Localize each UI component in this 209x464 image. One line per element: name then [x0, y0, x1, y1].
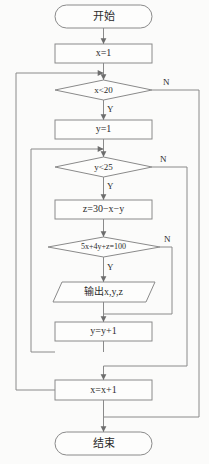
branch-label-cond-eq-yes: Y: [107, 262, 114, 272]
node-output-label: 输出x,y,z: [84, 285, 123, 297]
arrow-init-x-to-cond-x: [101, 74, 107, 80]
branch-label-cond-y-no: N: [160, 154, 167, 164]
arrow-start-to-init-x: [101, 38, 107, 44]
node-cond-x-label: x<20: [94, 85, 113, 95]
arrow-to-end: [101, 426, 107, 432]
branch-label-cond-y-yes: Y: [107, 181, 114, 191]
arrow-cond-y-to-calc-z: [101, 194, 107, 200]
node-start-label: 开始: [93, 9, 115, 22]
branch-label-cond-x-no: N: [163, 77, 170, 87]
branch-label-cond-x-yes: Y: [107, 104, 114, 114]
arrow-cond-eq-to-output: [101, 276, 107, 282]
node-end-label: 结束: [93, 437, 115, 449]
node-calc-z-label: z=30−x−y: [83, 203, 124, 214]
node-incr-x-label: x=x+1: [90, 384, 116, 395]
arrow-output-to-incr-y: [101, 316, 107, 322]
node-incr-y-label: y=y+1: [90, 325, 116, 336]
branch-label-cond-eq-no: N: [164, 234, 171, 244]
connector-outer-loop-left: [16, 73, 55, 390]
node-cond-y-label: y<25: [94, 162, 113, 172]
arrow-to-incr-x: [101, 374, 107, 380]
arrow-calc-z-to-cond-eq: [101, 231, 107, 237]
flowchart-svg: 开始 x=1 x<20 N Y y=1 y<25 N Y z=30−x−y 5x…: [0, 0, 209, 464]
arrow-inner-loop-into-cond-y: [98, 146, 104, 152]
node-cond-eq-label: 5x+4y+z=100: [81, 242, 126, 251]
node-init-y-label: y=1: [96, 123, 112, 134]
connector-cond-eq-no: [104, 247, 173, 314]
connector-inner-loop-left: [31, 149, 55, 352]
arrow-init-y-to-cond-y: [101, 151, 107, 157]
flowchart-canvas: 开始 x=1 x<20 N Y y=1 y<25 N Y z=30−x−y 5x…: [0, 0, 209, 464]
node-init-x-label: x=1: [96, 47, 112, 58]
arrow-cond-x-to-init-y: [101, 114, 107, 120]
